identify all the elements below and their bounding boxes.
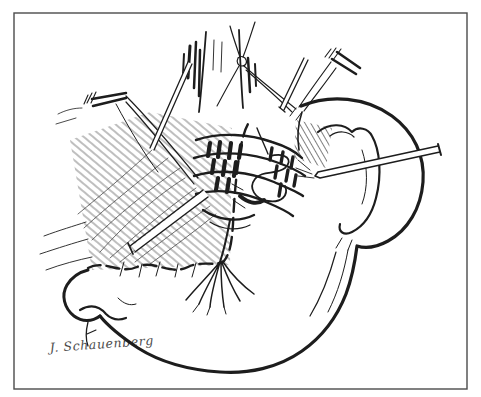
pylorus-duodenum xyxy=(64,270,100,321)
right-hemostat xyxy=(290,48,360,120)
surgical-illustration: J. Schauenberg xyxy=(0,0,481,397)
esophagus xyxy=(183,30,256,112)
illustration-page: J. Schauenberg xyxy=(0,0,481,397)
esophagus-right-edge xyxy=(239,30,243,108)
suture-knot xyxy=(237,57,246,67)
crows-foot xyxy=(186,262,254,307)
hemostat-jaws xyxy=(92,93,126,106)
artist-signature: J. Schauenberg xyxy=(46,333,154,355)
